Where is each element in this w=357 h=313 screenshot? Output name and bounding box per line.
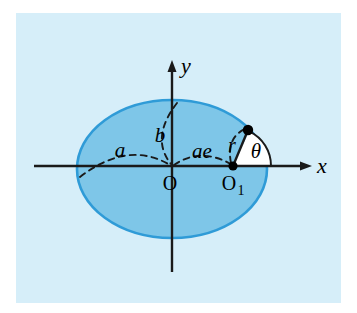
label-y-axis: y [179, 53, 191, 78]
label-focus-letter: O [222, 172, 236, 194]
label-focus-subscript: 1 [238, 183, 245, 198]
focus-point-marker [228, 161, 237, 170]
label-semi-major: a [115, 138, 126, 162]
label-origin: O [163, 172, 177, 194]
ellipse-point-marker [243, 125, 253, 135]
diagram-panel: a b ae r θ O O 1 x y [16, 13, 341, 303]
figure-root: a b ae r θ O O 1 x y [0, 0, 357, 313]
label-angle-theta: θ [251, 139, 261, 163]
label-x-axis: x [316, 153, 327, 178]
label-radius: r [228, 134, 236, 156]
ellipse-polar-diagram: a b ae r θ O O 1 x y [16, 13, 341, 303]
label-semi-minor: b [155, 123, 166, 147]
label-focal-distance: ae [192, 139, 212, 163]
